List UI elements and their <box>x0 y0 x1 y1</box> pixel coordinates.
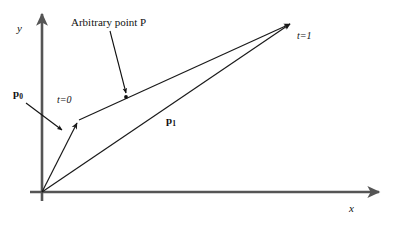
vector-p0-label: p0 <box>13 88 23 99</box>
diagram-canvas: y x p0 p1 t=0 t=1 Arbitrary point P <box>0 0 401 230</box>
point-p-marker <box>124 95 128 99</box>
segment-p0-p1-line <box>79 24 290 120</box>
vector-p0-label-subscript: 0 <box>19 92 23 101</box>
vector-p1-label-subscript: 1 <box>172 119 176 128</box>
vector-p1-line <box>42 24 290 192</box>
point-p-leader-line <box>110 31 126 93</box>
vector-p0-line <box>42 123 77 192</box>
p0-leader-line <box>26 103 62 130</box>
t-start-label: t=0 <box>57 95 72 105</box>
t-end-label: t=1 <box>297 31 312 41</box>
arbitrary-point-annotation-label: Arbitrary point P <box>71 17 146 28</box>
y-axis-label: y <box>17 23 22 34</box>
vector-diagram-svg <box>0 0 401 230</box>
x-axis-label: x <box>349 203 354 214</box>
vector-p1-label: p1 <box>166 115 176 126</box>
